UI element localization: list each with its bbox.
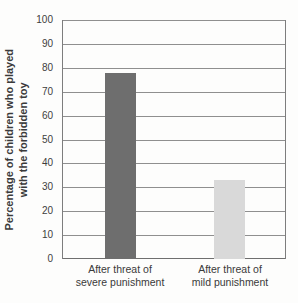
category-label-mild-line1: After threat of — [160, 263, 298, 276]
gridline — [63, 44, 285, 45]
y-tick-label: 30 — [42, 181, 53, 193]
y-axis-ticks: 1009080706050403020100 — [0, 20, 57, 259]
gridline — [63, 163, 285, 164]
y-tick-label: 90 — [42, 38, 53, 50]
gridline — [63, 140, 285, 141]
gridline — [63, 92, 285, 93]
y-tick-label: 100 — [36, 14, 53, 26]
bar-severe-punishment — [105, 73, 136, 259]
y-tick-label: 70 — [42, 86, 53, 98]
y-tick-label: 20 — [42, 205, 53, 217]
category-label-mild-line2: mild punishment — [160, 276, 298, 289]
y-tick-label: 50 — [42, 134, 53, 146]
plot-area — [62, 20, 286, 259]
y-tick-label: 80 — [42, 62, 53, 74]
gridline — [63, 116, 285, 117]
bar-mild-punishment — [214, 180, 245, 259]
y-tick-label: 60 — [42, 110, 53, 122]
gridline — [63, 20, 285, 21]
gridline — [63, 235, 285, 236]
x-axis-line — [63, 258, 285, 259]
category-label-mild: After threat of mild punishment — [160, 263, 298, 290]
y-tick-label: 40 — [42, 157, 53, 169]
gridline — [63, 68, 285, 69]
gridline — [63, 187, 285, 188]
y-tick-label: 10 — [42, 229, 53, 241]
bar-chart: Percentage of children who played with t… — [0, 0, 298, 303]
gridline — [63, 211, 285, 212]
